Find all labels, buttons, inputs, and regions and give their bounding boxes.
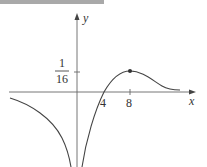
local-max-point bbox=[128, 69, 132, 73]
x-axis-label: x bbox=[188, 94, 195, 108]
chart: y x 4 8 1 16 bbox=[0, 0, 207, 167]
curve-right bbox=[82, 71, 180, 167]
y-axis-label: y bbox=[82, 11, 89, 25]
curve-left bbox=[10, 98, 71, 167]
y-axis-arrow-icon bbox=[75, 13, 80, 20]
y-tick-numerator: 1 bbox=[59, 56, 65, 70]
y-tick-denominator: 16 bbox=[56, 72, 68, 86]
x-tick-label-8: 8 bbox=[126, 96, 132, 110]
x-tick-label-4: 4 bbox=[100, 96, 106, 110]
